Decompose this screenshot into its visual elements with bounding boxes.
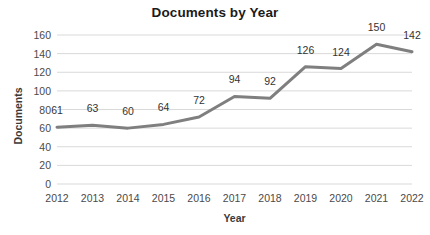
y-axis-tick-label: 120: [25, 66, 51, 78]
x-axis-title: Year: [57, 212, 412, 224]
x-axis-tick-label: 2020: [329, 192, 352, 204]
x-axis-tick-label: 2016: [187, 192, 210, 204]
x-axis-tick-label: 2012: [45, 192, 68, 204]
series-line-documents: [57, 44, 412, 128]
data-point-label: 60: [122, 105, 134, 117]
data-point-label: 64: [158, 101, 170, 113]
data-point-label: 92: [264, 75, 276, 87]
data-point-label: 142: [403, 29, 421, 41]
y-axis-tick-label: 100: [25, 85, 51, 97]
y-axis-tick-label: 80: [25, 104, 51, 116]
x-axis-tick-label: 2021: [365, 192, 388, 204]
chart-container: Documents by Year 020406080100120140160 …: [0, 0, 430, 235]
data-point-label: 124: [332, 46, 350, 58]
y-axis-tick-label: 0: [25, 178, 51, 190]
data-point-label: 61: [51, 104, 63, 116]
y-axis-tick-label: 160: [25, 29, 51, 41]
data-point-label: 63: [87, 102, 99, 114]
data-point-label: 126: [297, 44, 315, 56]
y-axis-tick-label: 140: [25, 48, 51, 60]
y-axis-tick-label: 40: [25, 141, 51, 153]
y-axis-title: Documents: [12, 76, 24, 156]
y-axis-tick-label: 20: [25, 159, 51, 171]
x-axis-tick-label: 2022: [400, 192, 423, 204]
x-axis-tick-label: 2015: [152, 192, 175, 204]
data-point-label: 94: [229, 73, 241, 85]
x-axis-tick-label: 2013: [81, 192, 104, 204]
data-point-label: 150: [368, 21, 386, 33]
x-axis-tick-label: 2019: [294, 192, 317, 204]
y-axis-tick-label: 60: [25, 122, 51, 134]
data-point-label: 72: [193, 94, 205, 106]
x-axis-tick-label: 2018: [258, 192, 281, 204]
x-axis-tick-label: 2017: [223, 192, 246, 204]
x-axis-tick-label: 2014: [116, 192, 139, 204]
